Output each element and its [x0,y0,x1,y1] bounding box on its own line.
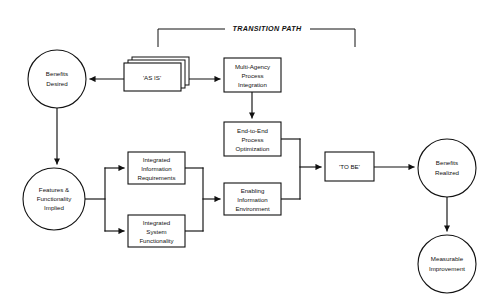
node-integrated-information-requirements[interactable]: Integrated Information Requirements [128,152,185,184]
enabling-label-line-2: Information [237,196,267,203]
integrated-system-label-line-2: System [146,228,166,235]
measurable-improvement-label-line-2: Improvement [429,265,465,272]
integrated-information-label-line-2: Information [141,165,171,172]
integrated-system-label-line-3: Functionality [139,237,174,244]
benefits-desired-label-line-2: Desired [46,80,68,87]
integrated-system-label-line-1: Integrated [143,219,170,226]
enabling-label-line-3: Environment [235,205,270,212]
node-integrated-system-functionality[interactable]: Integrated System Functionality [128,215,185,247]
diagram-canvas: TRANSITION PATH [0,0,504,303]
to-be-label: 'TO BE' [339,163,360,170]
multi-agency-label-line-1: Multi-Agency [235,63,271,70]
multi-agency-label-line-2: Process [241,72,263,79]
as-is-label: 'AS IS' [143,74,161,81]
benefits-desired-label-line-1: Benefits [46,70,68,77]
end-to-end-label-line-1: End-to-End [237,127,268,134]
enabling-label-line-1: Enabling [241,187,265,194]
bracket-left-arm [158,29,225,47]
integrated-information-label-line-3: Requirements [138,174,176,181]
features-label-line-2: Functionality [37,195,73,202]
node-features-functionality-implied[interactable]: Features & Functionality Implied [23,168,85,230]
node-benefits-realized[interactable]: Benefits Realized [418,139,476,197]
node-as-is[interactable]: 'AS IS' [124,57,189,91]
multi-agency-label-line-3: Integration [238,81,267,88]
features-label-line-3: Implied [44,204,65,211]
node-enabling-information-environment[interactable]: Enabling Information Environment [224,183,281,215]
measurable-improvement-label-line-1: Measurable [431,255,464,262]
integrated-information-label-line-1: Integrated [143,156,170,163]
node-measurable-improvement[interactable]: Measurable Improvement [418,235,476,293]
transition-path-label: TRANSITION PATH [233,24,302,33]
benefits-realized-label-line-2: Realized [435,169,460,176]
benefits-realized-label-line-1: Benefits [436,159,458,166]
node-end-to-end-process-optimization[interactable]: End-to-End Process Optimization [224,122,281,156]
end-to-end-label-line-2: Process [241,136,263,143]
bracket-right-arm [310,29,355,47]
node-multi-agency-process-integration[interactable]: Multi-Agency Process Integration [224,58,281,92]
transition-path-diagram: TRANSITION PATH [0,0,504,303]
end-to-end-label-line-3: Optimization [236,145,270,152]
features-label-line-1: Features & [39,186,70,193]
node-benefits-desired[interactable]: Benefits Desired [28,50,86,108]
node-to-be[interactable]: 'TO BE' [325,152,374,181]
transition-path-bracket: TRANSITION PATH [158,24,355,47]
